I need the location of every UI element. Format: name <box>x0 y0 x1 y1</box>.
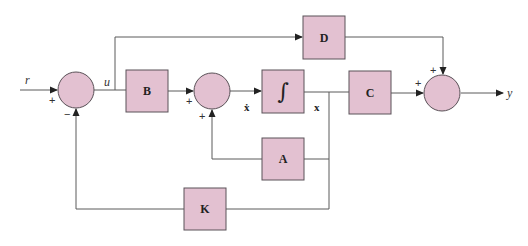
sum1-minus-sign: − <box>64 108 70 120</box>
signal-xdot-label: ẋ <box>244 101 250 113</box>
block-a-label: A <box>279 152 288 166</box>
block-b-label: B <box>143 84 151 98</box>
signal-y-label: y <box>506 86 513 100</box>
block-k-label: K <box>200 202 210 216</box>
signal-u-label: u <box>104 75 110 89</box>
block-c-label: C <box>366 86 375 100</box>
block-k: K <box>184 188 226 230</box>
block-d: D <box>303 16 345 59</box>
signal-r-label: r <box>25 73 30 87</box>
summing-junction-2 <box>194 73 230 109</box>
sum3-plus-sign-top: + <box>430 64 436 76</box>
wires <box>20 37 503 209</box>
sum2-plus-sign-left: + <box>186 95 192 107</box>
sum2-plus-sign-bottom: + <box>199 110 205 122</box>
block-diagram: B ∫ C D A K r u ẋ x y + − + + + + <box>0 0 528 246</box>
block-a: A <box>262 138 304 180</box>
sum1-plus-sign: + <box>49 94 55 106</box>
block-integrator: ∫ <box>262 70 304 113</box>
block-d-label: D <box>320 31 329 45</box>
sum3-plus-sign-left: + <box>415 77 421 89</box>
wire-a-to-sum2 <box>212 110 262 159</box>
signal-x-label: x <box>314 101 320 113</box>
summing-junction-1 <box>58 72 94 108</box>
integral-icon: ∫ <box>277 79 289 104</box>
block-c: C <box>349 71 391 114</box>
block-b: B <box>126 70 168 112</box>
summing-junction-3 <box>424 75 460 111</box>
wire-k-to-sum1 <box>76 109 184 209</box>
wire-d-to-sum3 <box>345 37 443 74</box>
